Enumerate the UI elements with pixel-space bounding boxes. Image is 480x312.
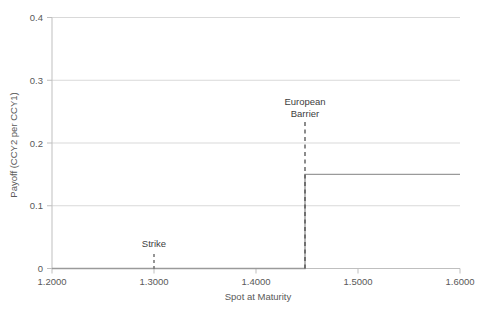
y-tick-label-0.1: 0.1 bbox=[30, 200, 43, 211]
chart-canvas: 0.4 0.3 0.2 0.1 0 1.2000 1.3000 1.4000 1… bbox=[0, 0, 480, 312]
european-barrier-annotation-label-line2: Barrier bbox=[291, 108, 320, 119]
european-barrier-annotation-label-line1: European bbox=[284, 96, 325, 107]
x-tick-label-1.6000: 1.6000 bbox=[445, 276, 474, 287]
y-tick-label-0.2: 0.2 bbox=[30, 138, 43, 149]
payoff-chart: 0.4 0.3 0.2 0.1 0 1.2000 1.3000 1.4000 1… bbox=[0, 0, 480, 312]
x-tick-label-1.5000: 1.5000 bbox=[343, 276, 372, 287]
y-axis-title: Payoff (CCY2 per CCY1) bbox=[8, 92, 19, 197]
chart-background bbox=[0, 0, 480, 312]
x-axis-title: Spot at Maturity bbox=[225, 291, 292, 302]
x-tick-label-1.4000: 1.4000 bbox=[241, 276, 270, 287]
y-tick-label-0.3: 0.3 bbox=[30, 75, 43, 86]
y-tick-label-0.4: 0.4 bbox=[30, 12, 43, 23]
strike-annotation-label: Strike bbox=[142, 238, 166, 249]
x-tick-label-1.2000: 1.2000 bbox=[37, 276, 66, 287]
x-tick-label-1.3000: 1.3000 bbox=[139, 276, 168, 287]
y-tick-label-0: 0 bbox=[38, 263, 43, 274]
